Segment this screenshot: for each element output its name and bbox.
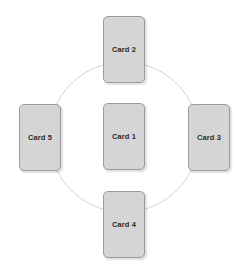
card-4-label: Card 4 [112, 221, 136, 229]
card-1[interactable]: Card 1 [103, 103, 145, 170]
card-4[interactable]: Card 4 [103, 191, 145, 258]
card-2[interactable]: Card 2 [103, 16, 145, 83]
card-3-label: Card 3 [197, 134, 221, 142]
diagram-canvas: Card 1 Card 2 Card 3 Card 4 Card 5 [0, 0, 247, 273]
card-2-label: Card 2 [112, 46, 136, 54]
card-1-label: Card 1 [112, 133, 136, 141]
card-5[interactable]: Card 5 [19, 104, 61, 171]
card-3[interactable]: Card 3 [188, 104, 230, 171]
card-5-label: Card 5 [28, 134, 52, 142]
